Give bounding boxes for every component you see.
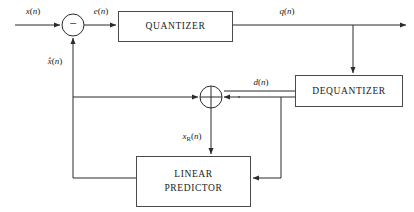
signal-label-q: q(n) (280, 6, 295, 16)
block-diagram: QUANTIZER DEQUANTIZER LINEAR PREDICTOR −… (0, 0, 414, 212)
block-quantizer-label: QUANTIZER (146, 21, 206, 31)
signal-label-x: x(n) (25, 6, 41, 16)
block-linear-predictor[interactable] (137, 157, 251, 207)
diagram-canvas: QUANTIZER DEQUANTIZER LINEAR PREDICTOR −… (0, 0, 414, 212)
wire-d-branch-to-predictor (253, 97, 281, 178)
block-dequantizer-label: DEQUANTIZER (312, 86, 386, 96)
block-linear-predictor-label-line1: LINEAR (174, 169, 212, 179)
signal-label-xr: xR(n) (182, 131, 202, 142)
subtractor-operator: − (69, 16, 76, 31)
signal-label-xhat: x̂(n) (47, 56, 63, 66)
signal-label-e: e(n) (94, 6, 109, 16)
signal-label-d: d(n) (254, 77, 269, 87)
block-linear-predictor-label-line2: PREDICTOR (164, 183, 222, 193)
